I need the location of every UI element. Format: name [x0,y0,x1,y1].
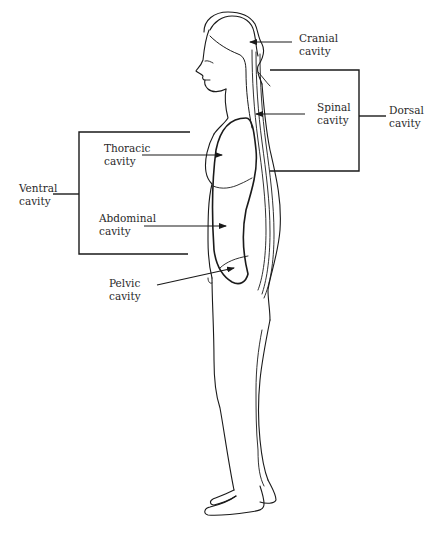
label-cranial-cavity: Cranial cavity [299,32,338,57]
pointer-arrows [142,42,305,285]
figure-drawing [0,0,430,539]
label-dorsal-cavity: Dorsal cavity [389,104,424,129]
label-pelvic-cavity: Pelvic cavity [109,277,141,302]
label-thoracic-cavity: Thoracic cavity [104,142,151,167]
label-abdominal-cavity: Abdominal cavity [99,212,156,237]
pelvic-arrow [157,268,234,285]
body-outline [196,12,280,515]
label-ventral-cavity: Ventral cavity [19,182,57,207]
body-cavities-diagram: Cranial cavity Spinal cavity Dorsal cavi… [0,0,430,539]
label-spinal-cavity: Spinal cavity [317,101,351,126]
